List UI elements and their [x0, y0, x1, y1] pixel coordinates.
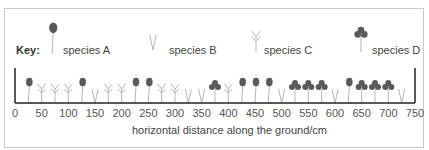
- plant-species-a-icon: [253, 78, 260, 103]
- key-icons: [49, 22, 367, 54]
- plant-species-d-icon: [209, 80, 221, 103]
- tick-label-500: 500: [272, 107, 290, 119]
- tick-label-600: 600: [326, 107, 344, 119]
- plant-species-b-icon: [279, 89, 285, 103]
- tick-label-750: 750: [406, 107, 424, 119]
- plant-species-a-icon: [79, 78, 86, 103]
- tick-label-0: 0: [12, 107, 18, 119]
- plant-species-a-icon: [133, 78, 140, 103]
- plant-species-c-icon: [51, 84, 59, 103]
- plant-species-a-icon: [346, 78, 353, 103]
- plant-species-c-icon: [38, 84, 46, 103]
- tick-label-250: 250: [139, 107, 157, 119]
- tick-label-650: 650: [352, 107, 370, 119]
- plant-species-a-icon: [266, 78, 273, 103]
- plant-species-c-icon: [118, 84, 126, 103]
- plant-species-d-icon: [382, 80, 394, 103]
- plant-species-d-icon: [356, 80, 368, 103]
- x-axis-label: horizontal distance along the ground/cm: [0, 124, 429, 136]
- plant-species-c-icon: [158, 84, 166, 103]
- plant-species-b-icon: [185, 89, 191, 103]
- plant-species-c-icon: [171, 84, 179, 103]
- plant-species-a-icon: [26, 78, 33, 103]
- plant-species-c-icon: [224, 84, 232, 103]
- plant-species-c-icon: [104, 84, 112, 103]
- tick-label-350: 350: [192, 107, 210, 119]
- tick-label-100: 100: [59, 107, 77, 119]
- tick-label-150: 150: [86, 107, 104, 119]
- plant-species-c-icon: [64, 84, 72, 103]
- plant-species-d-icon: [316, 80, 328, 103]
- plant-species-d-icon: [302, 80, 314, 103]
- tick-label-200: 200: [112, 107, 130, 119]
- plant-species-d-icon: [289, 80, 301, 103]
- tick-label-300: 300: [166, 107, 184, 119]
- plant-species-b-icon: [332, 89, 338, 103]
- plant-species-b-icon: [92, 89, 98, 103]
- tick-label-550: 550: [299, 107, 317, 119]
- plant-species-a-icon: [239, 78, 246, 103]
- transect-plants: [26, 78, 405, 103]
- plant-species-b-icon: [199, 89, 205, 103]
- plant-species-a-icon: [146, 78, 153, 103]
- tick-label-700: 700: [379, 107, 397, 119]
- plant-species-d-icon: [369, 80, 381, 103]
- plant-species-d-icon: [354, 27, 367, 52]
- tick-label-450: 450: [246, 107, 264, 119]
- plant-species-b-icon: [399, 89, 405, 103]
- plant-species-c-icon: [252, 31, 261, 52]
- plant-species-a-icon: [49, 22, 57, 54]
- tick-label-50: 50: [36, 107, 48, 119]
- plant-species-b-icon: [150, 35, 157, 50]
- tick-label-400: 400: [219, 107, 237, 119]
